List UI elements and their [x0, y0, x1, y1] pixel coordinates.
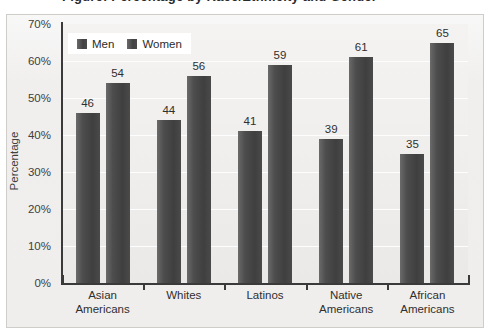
chart-figure: Figure: Percentage by Race/Ethnicity and… [0, 0, 492, 333]
bar [349, 57, 373, 283]
y-axis-title: Percentage [8, 116, 20, 206]
legend-item-men: Men [77, 38, 114, 50]
axis-end-cap [468, 275, 470, 285]
bar [400, 154, 424, 284]
y-tick-label: 30% [28, 166, 51, 178]
y-tick-label: 50% [28, 92, 51, 104]
x-axis-tick [387, 283, 389, 290]
x-axis-line [61, 283, 470, 285]
bar-value-label: 46 [68, 97, 108, 109]
bar [238, 131, 262, 283]
legend-item-women: Women [127, 38, 181, 50]
bar-value-label: 35 [392, 138, 432, 150]
x-tick-label: AfricanAmericans [367, 288, 487, 316]
legend-label: Men [92, 38, 114, 50]
y-tick-label: 70% [28, 18, 51, 30]
chart-legend: Men Women [68, 33, 191, 54]
x-axis-tick [306, 283, 308, 290]
x-tick-label-line: Americans [367, 302, 487, 316]
x-tick-label-line: Americans [43, 302, 163, 316]
bar [106, 83, 130, 283]
bar-value-label: 41 [230, 115, 270, 127]
bar [430, 43, 454, 284]
legend-swatch-icon [77, 39, 87, 49]
bar-value-label: 56 [179, 60, 219, 72]
legend-swatch-icon [127, 39, 137, 49]
y-tick-label: 20% [28, 203, 51, 215]
x-axis-tick [143, 283, 145, 290]
y-tick-label: 10% [28, 240, 51, 252]
plot-area [62, 24, 468, 283]
bar-value-label: 59 [260, 49, 300, 61]
bar-value-label: 65 [422, 27, 462, 39]
bar-value-label: 44 [149, 104, 189, 116]
bar [319, 139, 343, 283]
bar [187, 76, 211, 283]
legend-label: Women [142, 38, 181, 50]
bar [157, 120, 181, 283]
y-tick-label: 40% [28, 129, 51, 141]
bar-value-label: 61 [341, 41, 381, 53]
x-axis-tick [224, 283, 226, 290]
bar [76, 113, 100, 283]
gridline [62, 61, 468, 62]
x-tick-label-line: African [367, 288, 487, 302]
axis-end-cap [62, 275, 64, 285]
bar-value-label: 39 [311, 123, 351, 135]
bar-value-label: 54 [98, 67, 138, 79]
y-tick-label: 60% [28, 55, 51, 67]
figure-title-cropped: Figure: Percentage by Race/Ethnicity and… [0, 0, 492, 13]
y-axis-line [61, 22, 63, 285]
bar [268, 65, 292, 283]
